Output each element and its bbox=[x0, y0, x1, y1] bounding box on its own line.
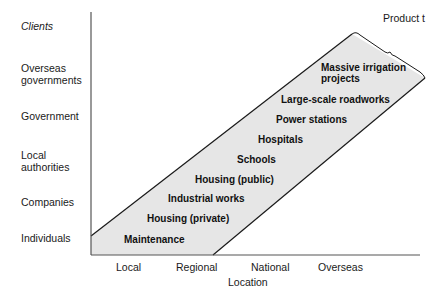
location-local: Local bbox=[116, 261, 141, 273]
product-large-scale-roadworks: Large-scale roadworks bbox=[281, 94, 390, 105]
product-housing-public: Housing (public) bbox=[195, 174, 274, 185]
location-regional: Regional bbox=[176, 261, 217, 273]
client-companies: Companies bbox=[21, 196, 74, 208]
product-power-stations: Power stations bbox=[276, 114, 347, 125]
client-overseas-line1: Overseas bbox=[21, 62, 82, 74]
location-national: National bbox=[251, 261, 290, 273]
client-local-authorities: Local authorities bbox=[21, 149, 69, 173]
diagram-canvas bbox=[0, 0, 437, 295]
client-overseas-governments: Overseas governments bbox=[21, 62, 82, 86]
client-overseas-line2: governments bbox=[21, 74, 82, 86]
client-individuals: Individuals bbox=[21, 232, 71, 244]
location-overseas: Overseas bbox=[318, 261, 363, 273]
irrigation-line2: projects bbox=[321, 73, 406, 84]
product-housing-private: Housing (private) bbox=[147, 213, 229, 224]
product-massive-irrigation: Massive irrigation projects bbox=[321, 62, 406, 84]
irrigation-line1: Massive irrigation bbox=[321, 62, 406, 73]
y-axis-title: Clients bbox=[21, 20, 53, 32]
x-axis-title: Location bbox=[228, 276, 268, 288]
client-local-line2: authorities bbox=[21, 161, 69, 173]
band-label: Product t bbox=[383, 12, 425, 24]
product-maintenance: Maintenance bbox=[124, 234, 185, 245]
client-local-line1: Local bbox=[21, 149, 69, 161]
product-hospitals: Hospitals bbox=[258, 134, 303, 145]
client-government: Government bbox=[21, 110, 79, 122]
product-schools: Schools bbox=[237, 154, 276, 165]
product-industrial-works: Industrial works bbox=[168, 193, 245, 204]
